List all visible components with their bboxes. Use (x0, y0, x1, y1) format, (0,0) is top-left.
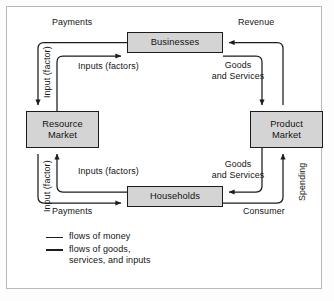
label-goods-and-services-upper-text: Goods and Services (212, 60, 265, 81)
label-revenue: Revenue (238, 17, 274, 27)
node-households-label: Households (150, 191, 200, 201)
label-spending: Spending (297, 163, 307, 201)
label-payments-top: Payments (52, 17, 92, 27)
node-resource-market-label-line1: Resource (42, 119, 83, 129)
legend-line-icon (46, 237, 63, 239)
node-product-market[interactable]: Product Market (250, 111, 323, 148)
legend-line-icon (46, 249, 63, 251)
label-inputs-factors-lower: Inputs (factors) (78, 166, 139, 176)
label-consumer: Consumer (243, 206, 285, 216)
label-goods-and-services-lower-text: Goods and Services (212, 159, 265, 180)
node-product-market-label-line1: Product (270, 119, 303, 129)
legend-item-label: flows of money (69, 231, 130, 242)
label-payments-bottom: Payments (52, 206, 92, 216)
node-households[interactable]: Households (127, 186, 223, 207)
label-goods-and-services-lower: Goods and Services (202, 159, 274, 181)
legend: flows of money flows of goods, services,… (46, 231, 151, 268)
label-inputs-factors-upper: Inputs (factors) (78, 61, 139, 71)
node-businesses[interactable]: Businesses (127, 32, 223, 53)
legend-item: flows of goods, services, and inputs (46, 244, 151, 267)
node-resource-market-label-line2: Market (48, 130, 77, 140)
label-input-factor-upper: Input (factor) (42, 46, 52, 98)
node-product-market-label-line2: Market (272, 130, 301, 140)
node-businesses-label: Businesses (151, 37, 200, 47)
legend-item-label: flows of goods, services, and inputs (69, 244, 151, 267)
label-goods-and-services-upper: Goods and Services (202, 60, 274, 82)
legend-item: flows of money (46, 231, 151, 242)
diagram-canvas: Businesses Households Resource Market Pr… (0, 0, 334, 301)
label-input-factor-lower: Input (factor) (42, 160, 52, 212)
node-resource-market[interactable]: Resource Market (26, 111, 99, 148)
